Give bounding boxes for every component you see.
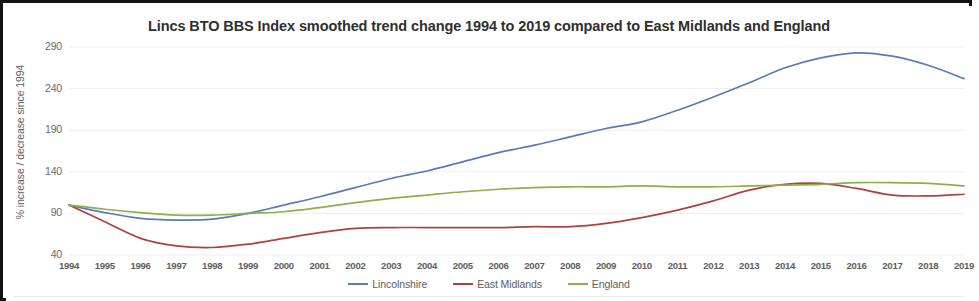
- chart-legend: LincolnshireEast MidlandsEngland: [6, 278, 972, 290]
- y-tick-label: 140: [28, 165, 62, 177]
- chart-canvas: Lincs BTO BBS Index smoothed trend chang…: [6, 6, 972, 301]
- x-tick-label: 1999: [230, 260, 266, 271]
- x-tick-label: 1994: [51, 260, 87, 271]
- x-tick-label: 2000: [266, 260, 302, 271]
- x-tick-label: 2001: [302, 260, 338, 271]
- x-tick-label: 2009: [588, 260, 624, 271]
- legend-swatch-icon: [568, 283, 588, 285]
- legend-label: England: [592, 278, 630, 290]
- legend-label: Lincolnshire: [372, 278, 427, 290]
- y-tick-label: 40: [28, 248, 62, 260]
- x-tick-label: 1996: [123, 260, 159, 271]
- x-tick-label: 2017: [874, 260, 910, 271]
- x-tick-label: 1997: [158, 260, 194, 271]
- y-tick-label: 190: [28, 123, 62, 135]
- x-tick-label: 2015: [803, 260, 839, 271]
- x-tick-label: 2005: [445, 260, 481, 271]
- x-tick-label: 2018: [910, 260, 946, 271]
- x-tick-label: 1995: [87, 260, 123, 271]
- legend-swatch-icon: [348, 283, 368, 285]
- x-tick-label: 2013: [731, 260, 767, 271]
- x-tick-label: 2004: [409, 260, 445, 271]
- x-tick-label: 2002: [337, 260, 373, 271]
- legend-item-east-midlands[interactable]: East Midlands: [453, 278, 542, 290]
- x-tick-label: 2012: [695, 260, 731, 271]
- x-tick-label: 2010: [624, 260, 660, 271]
- series-lines: [69, 53, 964, 248]
- x-tick-label: 2019: [946, 260, 979, 271]
- legend-swatch-icon: [453, 283, 473, 285]
- x-tick-label: 2011: [660, 260, 696, 271]
- x-tick-label: 2003: [373, 260, 409, 271]
- x-tick-label: 2007: [516, 260, 552, 271]
- x-tick-label: 1998: [194, 260, 230, 271]
- legend-divider: [14, 296, 964, 297]
- gridlines: [69, 47, 964, 255]
- legend-label: East Midlands: [477, 278, 542, 290]
- legend-item-england[interactable]: England: [568, 278, 630, 290]
- x-tick-label: 2008: [552, 260, 588, 271]
- legend-item-lincolnshire[interactable]: Lincolnshire: [348, 278, 427, 290]
- x-tick-label: 2016: [839, 260, 875, 271]
- series-line-lincolnshire: [69, 53, 964, 220]
- y-tick-label: 240: [28, 82, 62, 94]
- plot-area: [6, 6, 972, 301]
- y-tick-label: 90: [28, 206, 62, 218]
- x-tick-label: 2006: [481, 260, 517, 271]
- x-tick-label: 2014: [767, 260, 803, 271]
- y-tick-label: 290: [28, 40, 62, 52]
- series-line-england: [69, 182, 964, 215]
